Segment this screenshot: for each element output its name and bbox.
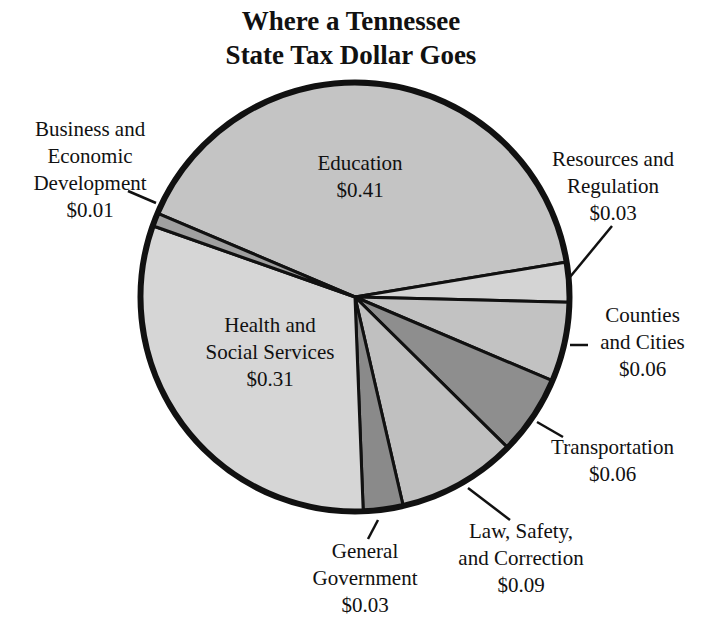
label-business: Business and Economic Development $0.01 — [10, 116, 170, 224]
leader-general — [368, 520, 378, 539]
label-business-name-1: Business and — [10, 116, 170, 143]
label-general-name-1: General — [295, 538, 435, 565]
label-resources-name-1: Resources and — [528, 146, 698, 173]
label-health-value: $0.31 — [180, 366, 360, 393]
label-health: Health and Social Services $0.31 — [180, 312, 360, 393]
label-transportation: Transportation $0.06 — [530, 434, 695, 488]
pie-slices — [142, 84, 568, 510]
label-business-name-3: Development — [10, 170, 170, 197]
label-transportation-name: Transportation — [530, 434, 695, 461]
label-general: General Government $0.03 — [295, 538, 435, 619]
label-education-value: $0.41 — [300, 177, 420, 204]
label-education: Education $0.41 — [300, 150, 420, 204]
label-general-name-2: Government — [295, 565, 435, 592]
label-business-value: $0.01 — [10, 197, 170, 224]
label-health-name-2: Social Services — [180, 339, 360, 366]
label-law-value: $0.09 — [436, 572, 606, 599]
leader-law — [468, 488, 510, 520]
label-counties-name-2: and Cities — [585, 329, 700, 356]
label-law: Law, Safety, and Correction $0.09 — [436, 518, 606, 599]
label-resources-name-2: Regulation — [528, 173, 698, 200]
label-health-name-1: Health and — [180, 312, 360, 339]
label-transportation-value: $0.06 — [530, 461, 695, 488]
label-business-name-2: Economic — [10, 143, 170, 170]
label-counties-name-1: Counties — [585, 302, 700, 329]
label-education-name: Education — [300, 150, 420, 177]
label-law-name-2: and Correction — [436, 545, 606, 572]
label-counties: Counties and Cities $0.06 — [585, 302, 700, 383]
label-resources-value: $0.03 — [528, 200, 698, 227]
leader-resources — [570, 226, 612, 277]
label-law-name-1: Law, Safety, — [436, 518, 606, 545]
label-resources: Resources and Regulation $0.03 — [528, 146, 698, 227]
label-counties-value: $0.06 — [585, 356, 700, 383]
label-general-value: $0.03 — [295, 592, 435, 619]
